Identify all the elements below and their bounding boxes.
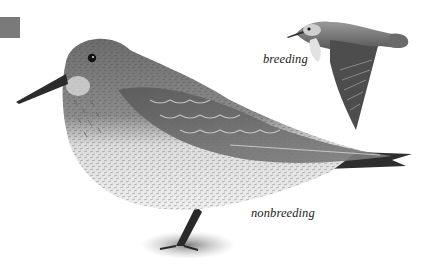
bird-illustration: [0, 0, 430, 278]
caption-breeding: breeding: [263, 52, 308, 67]
flying-bird: [287, 22, 408, 131]
caption-nonbreeding: nonbreeding: [251, 206, 315, 221]
